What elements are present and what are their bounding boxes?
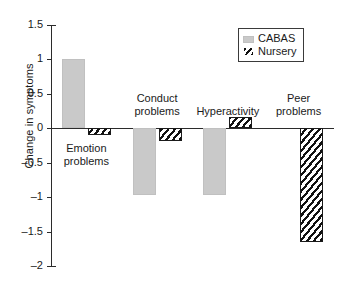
- y-tick-label: 0: [37, 121, 43, 134]
- category-label-line: Peer: [249, 92, 343, 105]
- legend-swatch-diagonal-hatch-square-icon: [243, 47, 254, 56]
- bar-cabas-emotion-problems: [62, 59, 85, 128]
- legend-label-nursery: Nursery: [258, 45, 297, 58]
- y-tick-label: –2: [31, 259, 43, 272]
- bar-nursery-hyperactivity: [229, 117, 252, 129]
- y-tick-label: 1: [37, 52, 43, 65]
- legend-item-nursery: Nursery: [243, 45, 297, 58]
- bar-nursery-conduct-problems: [159, 128, 182, 140]
- legend-item-cabas: CABAS: [243, 32, 297, 45]
- y-tick: –2: [47, 266, 52, 267]
- category-label-line: problems: [36, 155, 136, 168]
- bar-nursery-emotion-problems: [88, 128, 111, 135]
- bar-cabas-hyperactivity: [203, 128, 226, 195]
- category-label-line: Conduct: [107, 92, 207, 105]
- y-tick-label: 0.5: [28, 87, 43, 100]
- y-tick-label: 1.5: [28, 18, 43, 31]
- category-label-line: Emotion: [36, 142, 136, 155]
- bar-chart: Change in symptoms 1.510.50–0.5–1–1.5–2 …: [0, 0, 343, 283]
- category-label-emotion-problems: Emotionproblems: [36, 142, 136, 168]
- category-label-line: problems: [249, 105, 343, 118]
- bar-nursery-peer-problems: [300, 128, 323, 242]
- y-tick-label: –1.5: [22, 225, 43, 238]
- category-label-peer-problems: Peerproblems: [249, 92, 343, 118]
- y-tick-label: –1: [31, 190, 43, 203]
- chart-legend: CABAS Nursery: [238, 28, 304, 62]
- y-tick-mark: [47, 266, 52, 267]
- legend-label-cabas: CABAS: [258, 32, 295, 45]
- legend-swatch-solid-gray-square-icon: [243, 36, 254, 43]
